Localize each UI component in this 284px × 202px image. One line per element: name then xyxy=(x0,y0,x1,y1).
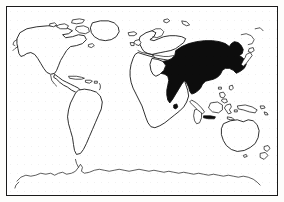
region-north-america xyxy=(17,26,86,74)
island-victoria xyxy=(57,24,69,29)
island-hispaniola xyxy=(85,80,92,83)
region-northeast-siberia xyxy=(241,28,263,45)
island-taiwan xyxy=(229,85,233,90)
island-ellesmere xyxy=(72,19,85,24)
island-sulawesi xyxy=(224,104,231,114)
island-tasmania xyxy=(243,154,247,157)
island-ireland xyxy=(130,43,134,46)
island-new-zealand-north xyxy=(264,146,270,152)
island-solomon-islands xyxy=(264,112,268,115)
island-lesser-antilles xyxy=(99,83,100,90)
island-borneo xyxy=(209,102,223,113)
island-java-shaded xyxy=(204,116,216,119)
island-baffin xyxy=(75,26,89,34)
island-hainan xyxy=(218,87,221,89)
region-greenland xyxy=(90,21,119,41)
region-australia xyxy=(221,120,259,152)
island-philippines-mindanao xyxy=(221,99,227,103)
island-new-zealand-south xyxy=(260,152,268,159)
region-south-america xyxy=(68,89,103,154)
island-great-britain xyxy=(134,40,141,46)
island-puerto-rico xyxy=(94,81,97,83)
island-philippines-luzon xyxy=(219,92,225,98)
region-antarctica xyxy=(17,164,260,185)
island-bismarck-archipelago xyxy=(260,106,265,109)
island-novaya-zemlya xyxy=(182,21,190,26)
world-map-graphic xyxy=(7,7,277,195)
island-hokkaido xyxy=(248,48,254,53)
island-svalbard xyxy=(164,19,170,23)
island-iceland xyxy=(128,32,137,36)
map-frame xyxy=(6,6,278,196)
island-timor xyxy=(227,117,234,120)
island-cuba xyxy=(69,76,85,79)
island-new-guinea xyxy=(237,105,257,113)
world-map-figure xyxy=(0,0,284,202)
island-newfoundland xyxy=(88,44,94,48)
island-moluccas xyxy=(234,110,237,112)
